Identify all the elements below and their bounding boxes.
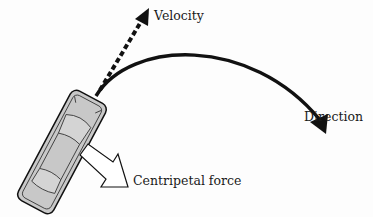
centripetal-force-diagram: Velocity Direction Centripetal force xyxy=(0,0,373,217)
velocity-label: Velocity xyxy=(154,10,204,23)
direction-label: Direction xyxy=(304,111,363,124)
centripetal-force-label: Centripetal force xyxy=(133,175,241,188)
velocity-arrow xyxy=(100,20,142,90)
velocity-arrowhead-icon xyxy=(135,8,149,26)
direction-arc xyxy=(96,55,320,120)
centripetal-arrow xyxy=(80,144,128,187)
